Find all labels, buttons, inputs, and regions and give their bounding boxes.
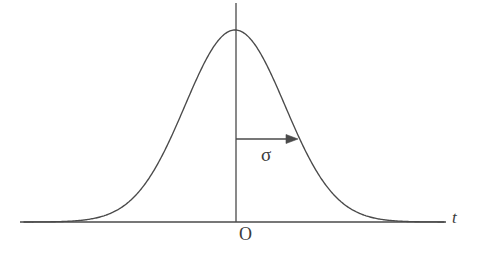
origin-label: O [239,225,252,243]
x-axis-label: t [452,209,457,226]
gaussian-curve [24,30,444,222]
sigma-label: σ [261,145,271,164]
sigma-arrowhead-icon [286,135,298,144]
normal-distribution-figure: O t σ [0,0,481,265]
